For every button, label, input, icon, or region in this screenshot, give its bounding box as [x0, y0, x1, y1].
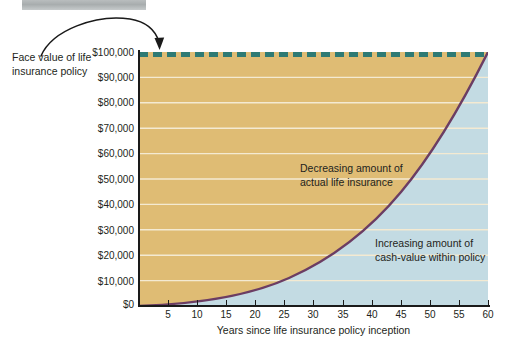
x-tick-label: 30 [300, 309, 326, 321]
x-tick-label: 10 [184, 309, 210, 321]
annotation-increasing-amount: Increasing amount of cash-value within p… [375, 237, 487, 264]
y-tick-label: $30,000 [70, 226, 134, 236]
x-tick-mark [197, 300, 198, 306]
x-tick-mark [430, 300, 431, 306]
x-tick-label: 60 [475, 309, 501, 321]
y-tick-label: $0 [70, 300, 134, 310]
x-tick-label: 20 [242, 309, 268, 321]
y-tick-label: $70,000 [70, 124, 134, 134]
x-tick-mark [255, 300, 256, 306]
y-tick-label: $90,000 [70, 73, 134, 83]
chart-plot-area: Decreasing amount of actual life insuran… [139, 52, 488, 306]
y-tick-label: $10,000 [70, 277, 134, 287]
y-tick-label: $20,000 [70, 251, 134, 261]
y-tick-label: $100,000 [70, 48, 134, 58]
x-tick-mark [284, 300, 285, 306]
x-tick-mark [401, 300, 402, 306]
y-axis-tick-labels: $100,000 $90,000 $80,000 $70,000 $60,000… [66, 0, 134, 351]
x-tick-label: 55 [446, 309, 472, 321]
x-tick-mark [488, 300, 489, 306]
x-tick-mark [343, 300, 344, 306]
x-tick-mark [313, 300, 314, 306]
x-tick-label: 15 [213, 309, 239, 321]
x-tick-mark [459, 300, 460, 306]
annotation-decreasing-amount: Decreasing amount of actual life insuran… [300, 162, 420, 189]
x-tick-label: 5 [155, 309, 181, 321]
y-tick-label: $50,000 [70, 175, 134, 185]
y-tick-label: $80,000 [70, 98, 134, 108]
x-tick-mark [226, 300, 227, 306]
y-tick-label: $60,000 [70, 149, 134, 159]
x-axis-line [138, 305, 490, 307]
x-axis-tick-labels: 5 10 15 20 25 30 35 40 45 50 55 60 [139, 309, 491, 325]
y-tick-label: $40,000 [70, 200, 134, 210]
x-axis-title: Years since life insurance policy incept… [139, 324, 488, 336]
x-tick-mark [168, 300, 169, 306]
y-axis-line [138, 50, 140, 306]
x-tick-mark [372, 300, 373, 306]
x-tick-label: 25 [271, 309, 297, 321]
x-tick-label: 35 [330, 309, 356, 321]
x-tick-label: 40 [359, 309, 385, 321]
x-tick-label: 45 [388, 309, 414, 321]
x-tick-label: 50 [417, 309, 443, 321]
